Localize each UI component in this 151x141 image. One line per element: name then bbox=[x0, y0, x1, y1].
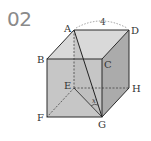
angle-label: x bbox=[92, 97, 96, 105]
vertex-label-h: H bbox=[132, 83, 141, 94]
cube-figure: 4 x A D B C E H F G bbox=[0, 0, 151, 141]
edge-length-label: 4 bbox=[100, 17, 106, 27]
vertex-label-a: A bbox=[63, 23, 72, 34]
vertex-label-b: B bbox=[37, 54, 44, 65]
vertex-label-f: F bbox=[37, 112, 44, 123]
vertex-label-e: E bbox=[64, 80, 71, 91]
vertex-label-d: D bbox=[131, 25, 139, 36]
vertex-label-c: C bbox=[104, 59, 112, 70]
vertex-label-g: G bbox=[98, 119, 106, 130]
